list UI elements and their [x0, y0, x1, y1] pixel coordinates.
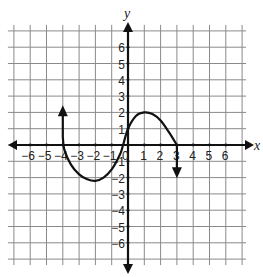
x-tick-label: 5 — [206, 149, 213, 163]
x-tick-label: 6 — [222, 149, 229, 163]
coordinate-graph: −6−5−4−3−2−10123456 −6−5−4−3−2−1123456 x… — [0, 0, 263, 277]
y-tick-label: −4 — [111, 204, 125, 218]
curve-down-arrow-icon — [172, 167, 182, 178]
y-tick-label: 3 — [118, 90, 125, 104]
y-tick-label: 6 — [118, 41, 125, 55]
x-tick-label: −3 — [70, 149, 84, 163]
y-tick-label: −2 — [111, 172, 125, 186]
x-tick-label: 2 — [157, 149, 164, 163]
y-tick-label: 5 — [118, 58, 125, 72]
y-tick-label: −3 — [111, 188, 125, 202]
x-tick-label: −5 — [38, 149, 52, 163]
x-tick-label: −6 — [21, 149, 35, 163]
y-axis-down-arrow-icon — [123, 264, 133, 274]
y-tick-label: 1 — [118, 123, 125, 137]
axes — [8, 22, 254, 274]
y-tick-label: 2 — [118, 106, 125, 120]
y-tick-label: 4 — [118, 74, 125, 88]
x-tick-label: 1 — [140, 149, 147, 163]
y-tick-label: −5 — [111, 221, 125, 235]
y-tick-label: −6 — [111, 237, 125, 251]
x-axis-left-arrow-icon — [8, 140, 17, 150]
x-axis-label: x — [253, 138, 261, 153]
curve-up-arrow-icon — [58, 105, 68, 116]
y-axis-label: y — [122, 6, 131, 21]
x-tick-label: −2 — [87, 149, 101, 163]
x-axis-right-arrow-icon — [245, 140, 254, 150]
x-tick-label: 4 — [189, 149, 196, 163]
y-axis-up-arrow-icon — [123, 22, 133, 32]
